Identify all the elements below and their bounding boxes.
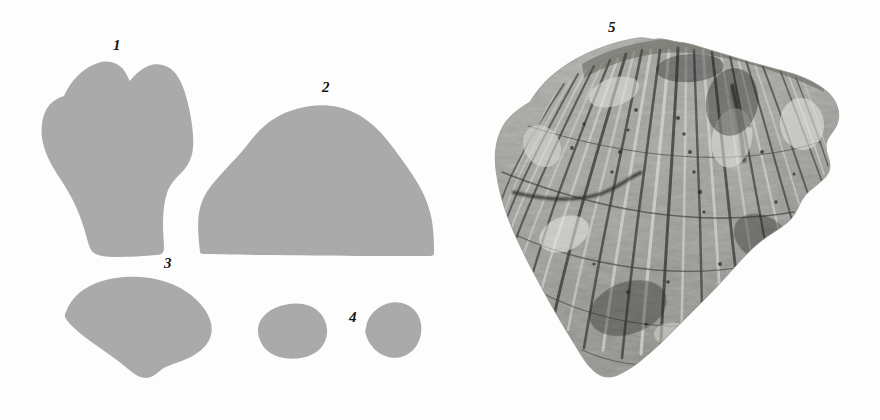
specimen-4-silhouette-pair <box>254 300 424 362</box>
figure-plate: 1 2 3 4 5 <box>0 0 880 420</box>
specimen-label-3: 3 <box>164 256 172 271</box>
specimen-label-1: 1 <box>113 38 121 53</box>
specimen-3-silhouette <box>58 272 230 382</box>
specimen-5-photograph <box>432 6 880 420</box>
specimen-label-2: 2 <box>322 80 330 95</box>
fossil-body <box>432 6 880 420</box>
specimen-4-outline-right <box>365 302 421 358</box>
specimen-1-outline <box>42 62 194 257</box>
specimen-3-outline <box>65 277 212 378</box>
specimen-2-outline <box>198 105 434 256</box>
specimen-4-outline-left <box>258 304 327 359</box>
specimen-1-silhouette <box>36 52 211 262</box>
specimen-2-silhouette <box>194 94 440 260</box>
